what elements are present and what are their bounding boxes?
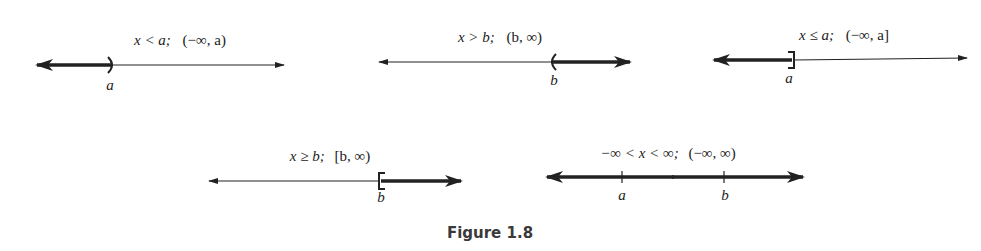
inequality-label: x < a; (−∞, a): [133, 32, 226, 49]
endpoint-label: b: [377, 189, 385, 205]
axis-line: [793, 58, 967, 60]
tick-label-b: b: [721, 187, 729, 203]
inequality-label: x ≤ a; (−∞, a]: [798, 27, 889, 44]
inequality-label: −∞ < x < ∞; (−∞, ∞): [600, 145, 736, 162]
number-line-x-less-equal-a: x ≤ a; (−∞, a] a: [714, 27, 967, 86]
endpoint-label: b: [550, 72, 558, 88]
interval-notation-figure: x < a; (−∞, a) a x > b; (b, ∞) b x ≤ a; …: [0, 0, 981, 251]
tick-label-a: a: [618, 187, 626, 203]
endpoint-label: a: [106, 77, 114, 93]
inequality-label: x > b; (b, ∞): [457, 29, 542, 46]
number-line-all-reals: −∞ < x < ∞; (−∞, ∞) a b: [547, 145, 803, 203]
endpoint-label: a: [785, 70, 793, 86]
number-line-x-greater-equal-b: x ≥ b; [b, ∞) b: [209, 148, 461, 205]
figure-caption: Figure 1.8: [447, 224, 533, 242]
number-line-x-less-than-a: x < a; (−∞, a) a: [37, 32, 284, 93]
inequality-label: x ≥ b; [b, ∞): [289, 148, 370, 165]
number-line-x-greater-than-b: x > b; (b, ∞) b: [379, 29, 630, 88]
